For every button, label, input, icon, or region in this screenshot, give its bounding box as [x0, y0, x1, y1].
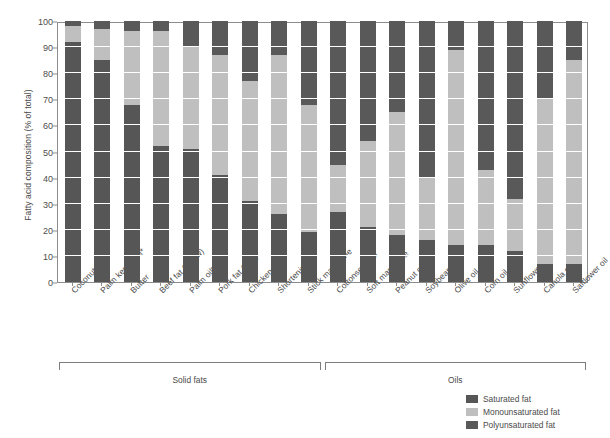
legend-label-saturated-fat: Saturated fat	[483, 394, 531, 404]
bar-segment-monounsaturated-fat	[360, 141, 376, 227]
bar-segment-polyunsaturated-fat	[330, 21, 346, 165]
bar-coconut-oil	[65, 21, 81, 282]
y-tick-label-70: 70	[27, 95, 53, 105]
bar-stick-margarine	[301, 21, 317, 282]
bar-palm-kernel-oil	[94, 21, 110, 282]
bar-beef-fat-tallow	[153, 21, 169, 282]
legend-label-monounsaturated-fat: Monounsaturated fat	[483, 407, 560, 417]
bar-segment-monounsaturated-fat	[478, 170, 494, 246]
bar-segment-monounsaturated-fat	[507, 199, 523, 251]
bar-segment-polyunsaturated-fat	[271, 21, 287, 55]
bar-segment-polyunsaturated-fat	[153, 21, 169, 31]
bar-series-container	[58, 23, 587, 282]
legend-item-polyunsaturated-fat[interactable]: Polyunsaturated fat	[466, 418, 560, 431]
bar-segment-monounsaturated-fat	[448, 50, 464, 246]
y-tick-label-40: 40	[27, 174, 53, 184]
bar-segment-monounsaturated-fat	[566, 60, 582, 264]
bar-segment-polyunsaturated-fat	[124, 21, 140, 31]
bar-segment-saturated-fat	[537, 264, 553, 282]
legend-swatch-polyunsaturated-fat	[466, 421, 478, 429]
gridline-50	[58, 151, 587, 152]
gridline-10	[58, 255, 587, 256]
bar-palm-oil	[183, 21, 199, 282]
bar-segment-saturated-fat	[330, 212, 346, 282]
bar-safflower-oil	[566, 21, 582, 282]
bar-segment-polyunsaturated-fat	[183, 21, 199, 47]
legend-item-monounsaturated-fat[interactable]: Monounsaturated fat	[466, 405, 560, 418]
y-tick-label-80: 80	[27, 69, 53, 79]
bar-pork-fat-lard	[212, 21, 228, 282]
bar-soft-margarine	[360, 21, 376, 282]
bar-segment-polyunsaturated-fat	[478, 21, 494, 170]
y-tick-label-50: 50	[27, 148, 53, 158]
y-tick-label-10: 10	[27, 252, 53, 262]
bar-segment-polyunsaturated-fat	[419, 21, 435, 178]
legend-swatch-monounsaturated-fat	[466, 408, 478, 416]
bar-segment-monounsaturated-fat	[389, 112, 405, 235]
bar-segment-monounsaturated-fat	[419, 178, 435, 241]
bar-peanut-oil	[389, 21, 405, 282]
bar-cottonseed-oil	[330, 21, 346, 282]
bar-segment-polyunsaturated-fat	[360, 21, 376, 141]
bar-butter	[124, 21, 140, 282]
bar-segment-saturated-fat	[94, 60, 110, 282]
bar-olive-oil	[448, 21, 464, 282]
bar-segment-polyunsaturated-fat	[566, 21, 582, 60]
bar-segment-saturated-fat	[65, 42, 81, 282]
bar-segment-saturated-fat	[271, 214, 287, 282]
bracket-oils	[325, 362, 587, 370]
bar-corn-oil	[478, 21, 494, 282]
bar-canola-oil	[537, 21, 553, 282]
bar-segment-saturated-fat	[301, 232, 317, 282]
bracket-label-oils: Oils	[325, 375, 587, 385]
legend-swatch-saturated-fat	[466, 395, 478, 403]
bar-segment-polyunsaturated-fat	[301, 21, 317, 105]
chart-legend: Saturated fatMonounsaturated fatPolyunsa…	[466, 392, 560, 431]
bar-segment-saturated-fat	[478, 245, 494, 282]
gridline-40	[58, 177, 587, 178]
bar-sunflower-oil	[507, 21, 523, 282]
gridline-60	[58, 124, 587, 125]
bar-segment-monounsaturated-fat	[124, 31, 140, 104]
bar-segment-polyunsaturated-fat	[94, 21, 110, 29]
y-tick-label-20: 20	[27, 226, 53, 236]
x-axis-labels: Coconut oil*Palm kernel oil*ButterBeef f…	[0, 283, 599, 363]
gridline-90	[58, 46, 587, 47]
bar-segment-saturated-fat	[448, 245, 464, 282]
bar-segment-monounsaturated-fat	[271, 55, 287, 214]
gridline-70	[58, 98, 587, 99]
bar-segment-saturated-fat	[419, 240, 435, 282]
legend-label-polyunsaturated-fat: Polyunsaturated fat	[483, 420, 555, 430]
bracket-solid-fats	[59, 362, 321, 370]
bar-segment-saturated-fat	[153, 146, 169, 282]
bracket-label-solid-fats: Solid fats	[59, 375, 321, 385]
gridline-80	[58, 72, 587, 73]
bar-segment-monounsaturated-fat	[330, 165, 346, 212]
bar-segment-saturated-fat	[242, 201, 258, 282]
legend-item-saturated-fat[interactable]: Saturated fat	[466, 392, 560, 405]
gridline-30	[58, 203, 587, 204]
bar-segment-saturated-fat	[389, 235, 405, 282]
bar-segment-monounsaturated-fat	[65, 26, 81, 42]
bar-segment-polyunsaturated-fat	[537, 21, 553, 99]
bar-segment-saturated-fat	[183, 149, 199, 282]
bar-segment-saturated-fat	[566, 264, 582, 282]
gridline-20	[58, 229, 587, 230]
bar-segment-monounsaturated-fat	[94, 29, 110, 60]
bar-segment-polyunsaturated-fat	[507, 21, 523, 198]
plot-area	[57, 22, 588, 283]
bar-soybean-oil	[419, 21, 435, 282]
bar-segment-polyunsaturated-fat	[212, 21, 228, 55]
y-tick-label-60: 60	[27, 121, 53, 131]
y-tick-label-30: 30	[27, 200, 53, 210]
y-tick-label-90: 90	[27, 43, 53, 53]
y-axis-ticks: 0102030405060708090100	[23, 22, 53, 283]
bar-chicken-fat	[242, 21, 258, 282]
y-tick-label-100: 100	[27, 17, 53, 27]
bar-shortening	[271, 21, 287, 282]
bar-segment-monounsaturated-fat	[153, 31, 169, 146]
